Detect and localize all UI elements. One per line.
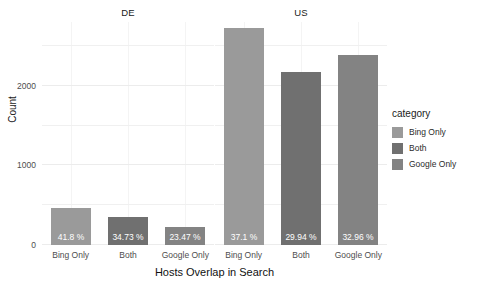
facet-strip-us: US	[215, 4, 387, 22]
y-axis-tick-2000: 2000	[0, 81, 36, 91]
legend-item-label: Both	[409, 143, 427, 153]
legend-swatch	[392, 143, 403, 154]
x-axis-title: Hosts Overlap in Search	[42, 266, 387, 278]
bar-chart: DE US Count 2000 1000 0 41.8 %34.73 %23.…	[0, 0, 479, 299]
bar-group-us: 37.1 %29.94 %32.96 %	[215, 22, 387, 245]
legend-item[interactable]: Both	[392, 141, 477, 155]
bar-value-label: 32.96 %	[338, 232, 378, 242]
legend-title: category	[392, 108, 477, 119]
bar[interactable]: 37.1 %	[224, 28, 264, 245]
bar-value-label: 34.73 %	[108, 232, 148, 242]
legend: category Bing OnlyBothGoogle Only	[392, 108, 477, 173]
facet-panel-us: 37.1 %29.94 %32.96 %	[215, 22, 387, 245]
legend-item-label: Bing Only	[409, 127, 446, 137]
y-axis-tick-0: 0	[0, 240, 36, 250]
bar[interactable]: 41.8 %	[51, 208, 91, 245]
legend-swatch	[392, 127, 403, 138]
bar[interactable]: 32.96 %	[338, 55, 378, 245]
facet-panel-de: 41.8 %34.73 %23.47 %	[42, 22, 214, 245]
legend-items: Bing OnlyBothGoogle Only	[392, 125, 477, 171]
x-axis-tick: Google Only	[318, 250, 398, 260]
facet-strip-row: DE US	[42, 4, 387, 22]
bar-value-label: 23.47 %	[165, 232, 205, 242]
bar[interactable]: 29.94 %	[281, 72, 321, 245]
bar[interactable]: 34.73 %	[108, 217, 148, 245]
legend-swatch	[392, 159, 403, 170]
bar-value-label: 41.8 %	[51, 232, 91, 242]
bar-value-label: 29.94 %	[281, 232, 321, 242]
legend-item[interactable]: Bing Only	[392, 125, 477, 139]
bar-group-de: 41.8 %34.73 %23.47 %	[42, 22, 214, 245]
y-axis-tick-1000: 1000	[0, 160, 36, 170]
bar[interactable]: 23.47 %	[165, 227, 205, 245]
facet-strip-de: DE	[42, 4, 214, 22]
bar-value-label: 37.1 %	[224, 232, 264, 242]
legend-item[interactable]: Google Only	[392, 157, 477, 171]
legend-item-label: Google Only	[409, 159, 456, 169]
